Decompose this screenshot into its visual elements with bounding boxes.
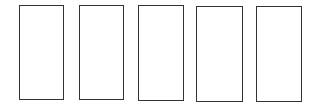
empty-box-2 [79, 5, 124, 100]
empty-box-1 [19, 5, 64, 100]
empty-box-4 [196, 6, 243, 102]
empty-box-3 [138, 5, 184, 101]
empty-box-5 [256, 6, 302, 102]
